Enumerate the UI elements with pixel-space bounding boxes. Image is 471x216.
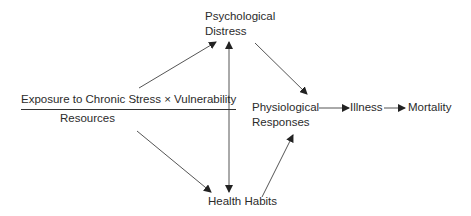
physio-line1: Physiological: [252, 100, 319, 115]
node-health-habits: Health Habits: [208, 194, 277, 209]
node-exposure-ratio: Exposure to Chronic Stress × Vulnerabili…: [21, 92, 236, 110]
illness-label: Illness: [350, 100, 383, 115]
node-psychological-distress: Psychological Distress: [205, 9, 275, 39]
psych-distress-line2: Distress: [205, 24, 275, 39]
psych-distress-line1: Psychological: [205, 9, 275, 24]
node-exposure-denominator: Resources: [60, 111, 115, 126]
edge-exposure-to-habits: [137, 131, 211, 192]
edge-exposure-to-distress: [139, 42, 216, 88]
node-illness: Illness: [350, 100, 383, 115]
edge-habits-to-physio: [262, 135, 293, 197]
edge-distress-to-physio: [255, 43, 307, 94]
mortality-label: Mortality: [408, 100, 451, 115]
health-habits-label: Health Habits: [208, 194, 277, 209]
stress-illness-diagram: Psychological Distress Exposure to Chron…: [0, 0, 471, 216]
exposure-denominator: Resources: [60, 111, 115, 126]
node-physiological-responses: Physiological Responses: [252, 100, 319, 130]
node-mortality: Mortality: [408, 100, 451, 115]
physio-line2: Responses: [252, 115, 319, 130]
exposure-numerator: Exposure to Chronic Stress × Vulnerabili…: [21, 92, 236, 110]
